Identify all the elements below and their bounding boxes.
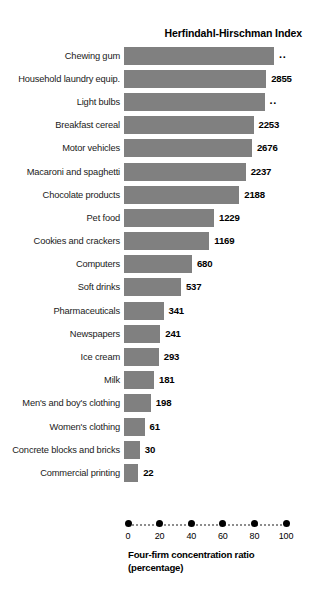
bar-track: 2237 xyxy=(124,160,316,183)
bar-value-label: 680 xyxy=(192,259,212,269)
bar-track: 293 xyxy=(124,345,316,368)
bar-category-label: Commercial printing xyxy=(0,468,124,478)
chart-title: Herfindahl-Hirschman Index xyxy=(0,27,302,39)
bar-track: 680 xyxy=(124,253,316,276)
bar xyxy=(124,348,159,366)
bar-value-label: 198 xyxy=(151,398,171,408)
bar xyxy=(124,278,181,296)
bar xyxy=(124,394,151,412)
bar-row: Newspapers241 xyxy=(0,322,316,345)
bar xyxy=(124,47,274,65)
bar-row: Motor vehicles2676 xyxy=(0,137,316,160)
bar xyxy=(124,209,214,227)
axis-tick-label: 60 xyxy=(218,531,228,541)
bar-track: 2188 xyxy=(124,183,316,206)
bar xyxy=(124,302,164,320)
bar-category-label: Cookies and crackers xyxy=(0,236,124,246)
bar-category-label: Ice cream xyxy=(0,352,124,362)
x-axis-label-line2: (percentage) xyxy=(128,562,314,575)
axis-tick-dot xyxy=(251,520,258,527)
bar-value-label: 2676 xyxy=(252,143,278,153)
axis-tick-dot xyxy=(125,520,132,527)
axis-tick-dot xyxy=(283,520,290,527)
bar-value-label: 537 xyxy=(181,282,201,292)
axis-tick-dot xyxy=(188,520,195,527)
bar-row: Commercial printing22 xyxy=(0,461,316,484)
bar-value-label: 61 xyxy=(145,422,160,432)
bar-track: 241 xyxy=(124,322,316,345)
bar-value-label: 241 xyxy=(160,329,180,339)
bar-track: 2253 xyxy=(124,114,316,137)
bar-track: 537 xyxy=(124,276,316,299)
bar-row: Macaroni and spaghetti2237 xyxy=(0,160,316,183)
bar xyxy=(124,186,239,204)
bar-row: Soft drinks537 xyxy=(0,276,316,299)
bar-track: 1229 xyxy=(124,206,316,229)
bar-row: Concrete blocks and bricks30 xyxy=(0,438,316,461)
bar-category-label: Concrete blocks and bricks xyxy=(0,445,124,455)
bar-rows: Chewing gum..Household laundry equip.285… xyxy=(0,44,316,485)
bar-category-label: Chewing gum xyxy=(0,51,124,61)
bar-value-label: .. xyxy=(265,95,277,105)
x-axis-tick-labels: 020406080100 xyxy=(128,531,286,545)
bar-value-label: 2253 xyxy=(254,120,280,130)
bar-track: 198 xyxy=(124,392,316,415)
bar-category-label: Newspapers xyxy=(0,329,124,339)
axis-tick-label: 0 xyxy=(126,531,131,541)
bar-category-label: Milk xyxy=(0,375,124,385)
bar-row: Cookies and crackers1169 xyxy=(0,230,316,253)
axis-dotted-line xyxy=(128,524,286,526)
bar xyxy=(124,441,140,459)
bar-value-label: .. xyxy=(274,49,286,59)
bar-row: Computers680 xyxy=(0,253,316,276)
bar xyxy=(124,139,252,157)
bar xyxy=(124,116,254,134)
bar-row: Pharmaceuticals341 xyxy=(0,299,316,322)
bar-track: 2676 xyxy=(124,137,316,160)
bar xyxy=(124,325,160,343)
chart-container: Herfindahl-Hirschman Index Chewing gum..… xyxy=(0,0,316,604)
bar-category-label: Breakfast cereal xyxy=(0,120,124,130)
bar-row: Men's and boy's clothing198 xyxy=(0,392,316,415)
bar-value-label: 2855 xyxy=(266,74,292,84)
bar-track: 181 xyxy=(124,369,316,392)
bar-value-label: 181 xyxy=(154,375,174,385)
bar-value-label: 341 xyxy=(164,306,184,316)
bar-row: Ice cream293 xyxy=(0,345,316,368)
bar xyxy=(124,255,192,273)
bar xyxy=(124,93,265,111)
bar-track: 2855 xyxy=(124,67,316,90)
bar-track: 22 xyxy=(124,461,316,484)
bar-category-label: Chocolate products xyxy=(0,190,124,200)
bar-value-label: 22 xyxy=(138,468,153,478)
bar xyxy=(124,70,266,88)
bar-value-label: 1169 xyxy=(209,236,234,246)
bar-value-label: 30 xyxy=(140,445,155,455)
bar-track: 341 xyxy=(124,299,316,322)
bar-track: .. xyxy=(124,90,316,113)
bar xyxy=(124,163,246,181)
bar-category-label: Soft drinks xyxy=(0,282,124,292)
bar-category-label: Pharmaceuticals xyxy=(0,306,124,316)
bar-row: Household laundry equip.2855 xyxy=(0,67,316,90)
bar xyxy=(124,371,154,389)
axis-tick-label: 100 xyxy=(279,531,293,541)
bar-category-label: Household laundry equip. xyxy=(0,74,124,84)
bar-category-label: Computers xyxy=(0,259,124,269)
bar-category-label: Light bulbs xyxy=(0,97,124,107)
bar-track: 61 xyxy=(124,415,316,438)
bar-value-label: 2188 xyxy=(239,190,265,200)
bar-value-label: 293 xyxy=(159,352,179,362)
bar xyxy=(124,464,138,482)
x-axis-label-line1: Four-firm concentration ratio xyxy=(128,549,254,560)
bar-category-label: Macaroni and spaghetti xyxy=(0,167,124,177)
bar-category-label: Motor vehicles xyxy=(0,143,124,153)
bar-track: 1169 xyxy=(124,230,316,253)
bar xyxy=(124,418,145,436)
bar-track: 30 xyxy=(124,438,316,461)
bar xyxy=(124,232,209,250)
axis-tick-label: 80 xyxy=(250,531,260,541)
bar-row: Breakfast cereal2253 xyxy=(0,114,316,137)
bar-category-label: Men's and boy's clothing xyxy=(0,398,124,408)
bar-value-label: 2237 xyxy=(246,167,272,177)
